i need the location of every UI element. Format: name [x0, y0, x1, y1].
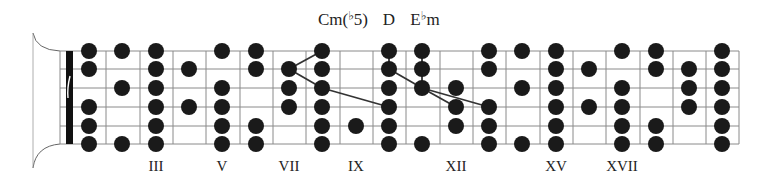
note-dot: [381, 61, 397, 77]
nut: [66, 51, 73, 144]
note-dot: [681, 61, 697, 77]
note-dot: [314, 99, 330, 115]
note-dot: [548, 43, 564, 59]
note-dot: [148, 136, 164, 152]
note-dot: [548, 99, 564, 115]
chord-suffix: 5): [354, 10, 368, 29]
note-dot: [548, 61, 564, 77]
note-dot: [148, 61, 164, 77]
note-dot: [81, 43, 97, 59]
note-dot: [714, 136, 730, 152]
fret-label: XII: [446, 158, 467, 175]
note-dot: [148, 99, 164, 115]
note-dot: [181, 61, 197, 77]
chord-name: E: [410, 10, 420, 29]
headstock-outline-bottom: [33, 144, 60, 168]
fret-label: VII: [279, 158, 300, 175]
note-dot: [614, 43, 630, 59]
note-dot: [514, 43, 530, 59]
note-dot: [648, 136, 664, 152]
note-dot: [381, 80, 397, 96]
note-dot: [281, 99, 297, 115]
note-dot: [81, 99, 97, 115]
note-dot: [548, 118, 564, 134]
note-dot: [681, 80, 697, 96]
note-dot: [648, 118, 664, 134]
note-dot: [614, 99, 630, 115]
note-dot: [548, 80, 564, 96]
chord-suffix: m: [426, 10, 439, 29]
note-dot: [81, 136, 97, 152]
chord-label-cm-b5: Cm(♭5): [318, 10, 368, 30]
note-dot: [714, 118, 730, 134]
note-dot: [714, 80, 730, 96]
chord-label-eb-m: E♭m: [410, 10, 439, 30]
note-dot: [581, 99, 597, 115]
note-dot: [281, 61, 297, 77]
note-dot: [314, 80, 330, 96]
note-dot: [481, 43, 497, 59]
note-dot: [114, 43, 130, 59]
note-dot: [248, 61, 264, 77]
note-dot: [381, 118, 397, 134]
note-dot: [314, 43, 330, 59]
fret-label: XV: [545, 158, 567, 175]
headstock-outline-top: [33, 33, 60, 51]
note-dot: [214, 80, 230, 96]
note-dot: [648, 43, 664, 59]
note-dot: [214, 136, 230, 152]
fretboard-diagram: Cm(♭5)DE♭m IIIVVIIIXXIIXVXVII: [0, 0, 768, 186]
note-dot: [714, 61, 730, 77]
note-dot: [314, 136, 330, 152]
chord-name: Cm(: [318, 10, 348, 29]
note-dot: [481, 61, 497, 77]
note-dot: [348, 118, 364, 134]
note-dot: [414, 61, 430, 77]
chord-name: D: [383, 10, 395, 29]
note-dot: [614, 80, 630, 96]
fret-label: III: [149, 158, 164, 175]
note-dot: [148, 43, 164, 59]
note-dot: [614, 118, 630, 134]
note-dot: [448, 99, 464, 115]
connector-cm-b5: [322, 88, 389, 107]
note-dot: [648, 61, 664, 77]
note-dot: [414, 80, 430, 96]
note-dot: [81, 61, 97, 77]
flat-sign: ♭: [421, 9, 427, 23]
note-dot: [114, 80, 130, 96]
chord-connectors: [289, 51, 489, 107]
nut-bar: [66, 51, 73, 144]
note-dot: [514, 136, 530, 152]
note-dot: [448, 80, 464, 96]
note-dot: [381, 99, 397, 115]
note-dot: [381, 136, 397, 152]
note-dot: [414, 136, 430, 152]
note-dot: [481, 118, 497, 134]
note-dot: [248, 43, 264, 59]
note-dot: [681, 99, 697, 115]
flat-sign: ♭: [348, 9, 354, 23]
note-dot: [548, 136, 564, 152]
note-dot: [214, 99, 230, 115]
note-dot: [581, 61, 597, 77]
note-dot: [214, 118, 230, 134]
fret-label: IX: [348, 158, 364, 175]
note-dot: [614, 136, 630, 152]
note-dot: [414, 43, 430, 59]
note-dot: [114, 136, 130, 152]
note-dot: [448, 118, 464, 134]
fret-label: XVII: [606, 158, 638, 175]
note-dot: [514, 80, 530, 96]
note-dot: [248, 136, 264, 152]
note-dot: [481, 99, 497, 115]
note-dot: [281, 80, 297, 96]
note-dot: [314, 118, 330, 134]
chord-label-d: D: [383, 10, 395, 30]
note-dot: [714, 43, 730, 59]
fret-label: V: [217, 158, 228, 175]
note-dot: [481, 136, 497, 152]
note-dot: [181, 99, 197, 115]
note-dot: [148, 118, 164, 134]
note-dot: [714, 99, 730, 115]
